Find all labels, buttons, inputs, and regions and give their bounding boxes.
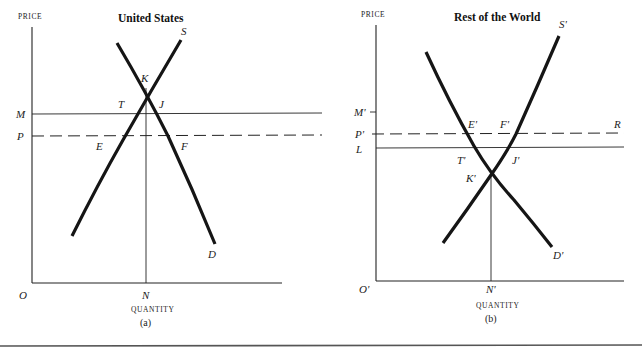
label-p-prime: P' <box>354 128 365 140</box>
label-origin-o-prime: O' <box>359 283 370 295</box>
panel-rest-of-world: PRICE Rest of the World S' E' F' R T' J'… <box>353 10 624 325</box>
quantity-axis-label: QUANTITY <box>476 301 520 310</box>
label-origin-o: O <box>19 289 27 301</box>
label-s: S <box>181 25 187 37</box>
label-e-prime: E' <box>467 118 478 130</box>
price-level-p-line <box>32 135 322 136</box>
price-level-m-line <box>32 113 322 114</box>
label-k-prime: K' <box>465 172 476 184</box>
label-n: N <box>141 289 150 301</box>
label-p: P <box>16 130 24 142</box>
label-t-prime: T' <box>457 154 466 166</box>
supply-curve-s <box>72 40 181 236</box>
price-axis-label: PRICE <box>18 12 42 21</box>
label-n-prime: N' <box>485 283 496 295</box>
panel-caption-a: (a) <box>140 317 151 329</box>
panel-title: United States <box>118 12 184 24</box>
trade-equilibrium-figure: PRICE United States S K T J E F D M P O … <box>0 0 642 349</box>
label-e: E <box>95 140 103 152</box>
label-f: F <box>180 140 188 152</box>
diagram-canvas: PRICE United States S K T J E F D M P O … <box>0 0 642 349</box>
label-m: M <box>15 108 26 120</box>
bottom-rule-divider <box>0 345 642 346</box>
label-m-prime: M' <box>353 106 366 118</box>
panel-title: Rest of the World <box>454 11 541 23</box>
supply-curve-s-prime <box>443 36 559 243</box>
label-r: R <box>613 118 621 130</box>
label-t: T <box>118 98 125 110</box>
panel-caption-b: (b) <box>485 313 497 325</box>
label-l: L <box>355 143 362 155</box>
label-j-prime: J' <box>512 154 520 166</box>
price-level-l-line <box>376 147 624 148</box>
demand-curve-d <box>117 43 215 244</box>
label-d-prime: D' <box>552 249 564 261</box>
quantity-axis-label: QUANTITY <box>131 305 175 314</box>
label-k: K <box>140 72 149 84</box>
label-f-prime: F' <box>499 118 510 130</box>
label-s-prime: S' <box>559 18 568 30</box>
label-j: J <box>159 98 165 110</box>
price-level-p-prime-line <box>372 133 624 134</box>
price-axis-label: PRICE <box>361 10 385 19</box>
label-d: D <box>207 248 216 260</box>
panel-united-states: PRICE United States S K T J E F D M P O … <box>15 12 322 329</box>
demand-curve-d-prime <box>426 52 552 247</box>
